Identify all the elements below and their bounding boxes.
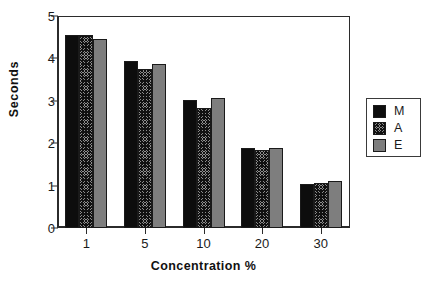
legend-swatch-icon: [373, 122, 386, 135]
x-axis-tick-label: 30: [291, 236, 351, 251]
bar-a-10: [197, 108, 211, 228]
y-axis-tick-label: 2: [0, 137, 55, 150]
y-axis-tick-mark: [51, 185, 58, 186]
x-axis-tick-mark: [321, 228, 322, 234]
bar-a-30: [314, 183, 328, 228]
x-axis-tick-label: 5: [115, 236, 175, 251]
y-axis-tick-mark: [51, 16, 58, 17]
x-axis-title: Concentration %: [57, 259, 350, 273]
legend: MAE: [366, 98, 421, 157]
y-axis-tick-mark: [51, 100, 58, 101]
x-axis-tick-mark: [204, 228, 205, 234]
bar-e-10: [211, 98, 225, 228]
bar-a-1: [79, 35, 93, 228]
bar-a-20: [255, 150, 269, 228]
legend-swatch-icon: [373, 105, 386, 118]
legend-label: E: [394, 138, 402, 152]
x-axis-tick-mark: [145, 228, 146, 234]
bar-m-5: [124, 61, 138, 228]
y-axis-tick-label: 0: [0, 222, 55, 235]
x-axis-tick-mark: [262, 228, 263, 234]
y-axis-tick-label: 5: [0, 10, 55, 23]
y-axis-tick-label: 1: [0, 179, 55, 192]
bar-chart: 012345 15102030 Seconds Concentration % …: [0, 0, 433, 283]
legend-item-m: M: [373, 105, 418, 118]
legend-label: A: [394, 121, 402, 135]
x-axis-tick-mark: [86, 228, 87, 234]
legend-item-e: E: [373, 139, 418, 152]
y-axis-tick-mark: [51, 143, 58, 144]
legend-swatch-icon: [373, 139, 386, 152]
legend-item-a: A: [373, 122, 418, 135]
bar-e-20: [269, 148, 283, 228]
legend-label: M: [394, 104, 404, 118]
bar-a-5: [138, 69, 152, 228]
bar-e-30: [328, 181, 342, 228]
bar-m-30: [300, 184, 314, 228]
y-axis-tick-mark: [51, 58, 58, 59]
y-axis-title: Seconds: [7, 49, 21, 129]
x-axis-tick-label: 10: [174, 236, 234, 251]
x-axis-tick-label: 20: [232, 236, 292, 251]
bar-m-20: [241, 148, 255, 228]
bar-e-1: [93, 39, 107, 228]
bar-m-10: [183, 100, 197, 228]
x-axis-tick-label: 1: [56, 236, 116, 251]
bar-e-5: [152, 64, 166, 228]
y-axis-tick-mark: [51, 228, 58, 229]
bar-m-1: [65, 35, 79, 228]
